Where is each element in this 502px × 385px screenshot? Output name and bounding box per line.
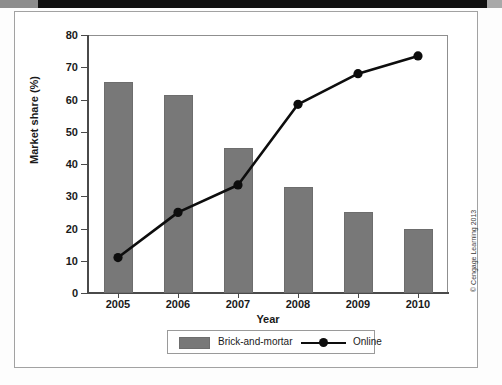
x-tick-label-2009: 2009 (328, 298, 388, 310)
bar-2009 (344, 212, 373, 293)
copyright-notice: © Cengage Learning 2013 (470, 210, 477, 292)
x-tick-label-2006: 2006 (148, 298, 208, 310)
y-tick-10 (81, 261, 88, 262)
y-tick-label-70: 70 (52, 61, 78, 73)
x-tick-label-2007: 2007 (208, 298, 268, 310)
x-tick-label-2008: 2008 (268, 298, 328, 310)
y-tick-label-40: 40 (52, 158, 78, 170)
y-tick-20 (81, 229, 88, 230)
y-tick-label-20: 20 (52, 223, 78, 235)
y-tick-80 (81, 35, 88, 36)
y-tick-label-30: 30 (52, 190, 78, 202)
scan-artifact-strip (0, 0, 502, 8)
x-axis-label: Year (88, 313, 448, 325)
y-tick-label-wrap-70: 70 (50, 67, 78, 68)
y-tick-label-wrap-30: 30 (50, 196, 78, 197)
y-tick-label-50: 50 (52, 126, 78, 138)
figure-page: 01020304050607080 2005200620072008200920… (0, 0, 502, 385)
bar-2010 (404, 229, 433, 294)
y-axis-label: Market share (%) (28, 76, 40, 164)
plot-area (88, 35, 448, 293)
legend: Brick-and-mortar Online (167, 330, 375, 354)
y-tick-label-wrap-80: 80 (50, 35, 78, 36)
y-tick-30 (81, 196, 88, 197)
y-tick-label-wrap-20: 20 (50, 229, 78, 230)
y-tick-label-10: 10 (52, 255, 78, 267)
y-tick-70 (81, 67, 88, 68)
y-tick-label-wrap-0: 0 (50, 293, 78, 294)
y-tick-label-80: 80 (52, 29, 78, 41)
scan-artifact-right (487, 0, 502, 8)
y-tick-0 (81, 293, 88, 294)
y-tick-label-wrap-10: 10 (50, 261, 78, 262)
legend-line-online (301, 336, 346, 350)
x-tick-label-2010: 2010 (388, 298, 448, 310)
legend-swatch-brick-and-mortar (179, 337, 210, 349)
legend-marker-dot (319, 338, 328, 347)
y-tick-60 (81, 100, 88, 101)
y-tick-label-wrap-40: 40 (50, 164, 78, 165)
y-tick-label-0: 0 (52, 287, 78, 299)
y-tick-label-60: 60 (52, 94, 78, 106)
x-axis-line (87, 292, 449, 294)
y-tick-40 (81, 164, 88, 165)
bar-2005 (104, 82, 133, 293)
y-tick-50 (81, 132, 88, 133)
y-tick-label-wrap-50: 50 (50, 132, 78, 133)
y-tick-label-wrap-60: 60 (50, 100, 78, 101)
x-tick-label-2005: 2005 (88, 298, 148, 310)
scan-artifact-left (0, 0, 38, 8)
bar-2006 (164, 95, 193, 293)
bar-2008 (284, 187, 313, 293)
legend-label-online: Online (353, 336, 382, 347)
bar-2007 (224, 148, 253, 293)
legend-label-brick-and-mortar: Brick-and-mortar (218, 336, 292, 347)
